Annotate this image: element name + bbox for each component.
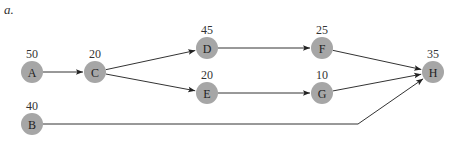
edge-g-h <box>333 74 421 91</box>
node-label: C <box>91 66 99 80</box>
edge-c-d <box>106 51 196 70</box>
node-label: B <box>28 118 36 132</box>
edge-c-e <box>106 74 195 91</box>
node-weight: 40 <box>26 99 38 113</box>
node-c: C20 <box>84 47 106 83</box>
node-label: H <box>429 66 438 80</box>
node-f: F25 <box>311 23 333 59</box>
node-weight: 35 <box>427 47 439 61</box>
node-a: A50 <box>21 47 43 83</box>
node-label: D <box>203 42 212 56</box>
node-weight: 50 <box>26 47 38 61</box>
node-label: A <box>28 66 37 80</box>
node-b: B40 <box>21 99 43 135</box>
node-label: E <box>203 87 210 101</box>
node-weight: 20 <box>89 47 101 61</box>
node-d: D45 <box>196 23 218 59</box>
network-diagram: A50B40C20D45E20F25G10H35 <box>0 0 458 142</box>
edge-b-h <box>43 79 423 124</box>
node-g: G10 <box>311 68 333 104</box>
node-label: F <box>319 42 326 56</box>
node-h: H35 <box>422 47 444 83</box>
node-weight: 25 <box>316 23 328 37</box>
nodes-group: A50B40C20D45E20F25G10H35 <box>21 23 444 135</box>
node-weight: 45 <box>201 23 213 37</box>
node-e: E20 <box>196 68 218 104</box>
edge-f-h <box>333 50 422 69</box>
node-label: G <box>318 87 327 101</box>
node-weight: 10 <box>316 68 328 82</box>
node-weight: 20 <box>201 68 213 82</box>
